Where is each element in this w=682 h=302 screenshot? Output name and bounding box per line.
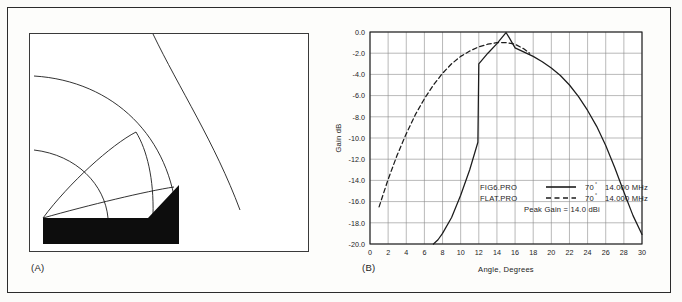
x-axis-tick-label: 14 <box>493 248 501 257</box>
panel-a-terrain-diagram <box>29 33 309 252</box>
y-axis-tick-label: -2.0 <box>353 49 365 58</box>
legend-frequency-series-2: 14.000 MHz <box>605 194 648 203</box>
y-axis-tick-label: -16.0 <box>349 197 365 206</box>
y-axis-tick-label: -6.0 <box>353 91 365 100</box>
legend-angle-series-1: 70 <box>585 183 594 192</box>
x-axis-tick-label: 24 <box>584 248 592 257</box>
x-axis-tick-label: 28 <box>620 248 628 257</box>
x-axis-tick-label: 10 <box>457 248 465 257</box>
panel-b-gain-chart: 0246810121416182022242628300.0-2.0-4.0-6… <box>330 20 660 280</box>
panel-a-drawing <box>29 33 309 252</box>
y-axis-tick-label: -12.0 <box>349 155 365 164</box>
ray-arc-large <box>34 76 177 218</box>
y-axis-tick-label: -10.0 <box>349 134 365 143</box>
x-axis-tick-label: 30 <box>638 248 646 257</box>
x-axis-tick-label: 18 <box>529 248 537 257</box>
y-axis-tick-label: -4.0 <box>353 70 365 79</box>
legend-frequency-series-1: 14.000 MHz <box>605 183 648 192</box>
y-axis-tick-label: -8.0 <box>353 113 365 122</box>
legend-label-series-2: FLAT.PRO <box>480 194 517 203</box>
x-axis-tick-label: 2 <box>386 248 390 257</box>
y-axis-tick-label: 0.0 <box>355 28 365 37</box>
legend-angle-series-2: 70 <box>585 194 594 203</box>
x-axis-title: Angle, Degrees <box>478 265 534 274</box>
x-axis-tick-label: 20 <box>547 248 555 257</box>
legend-degree-series-1: ° <box>595 181 597 187</box>
legend-label-series-1: FIG6.PRO <box>480 183 517 192</box>
gain-vs-angle-plot: 0246810121416182022242628300.0-2.0-4.0-6… <box>330 20 660 280</box>
legend-degree-series-2: ° <box>595 192 597 198</box>
x-axis-tick-label: 6 <box>422 248 426 257</box>
x-axis-tick-label: 12 <box>475 248 483 257</box>
y-axis-tick-label: -18.0 <box>349 219 365 228</box>
figure-root: (A) 0246810121416182022242628300.0-2.0-4… <box>0 0 682 302</box>
peak-gain-annotation: Peak Gain = 14.0 dBi <box>524 205 600 214</box>
panel-b-caption: (B) <box>362 262 376 273</box>
x-axis-tick-label: 4 <box>404 248 408 257</box>
panel-a-caption: (A) <box>31 262 45 273</box>
x-axis-tick-label: 0 <box>368 248 372 257</box>
ray-arc-outer <box>153 34 240 210</box>
x-axis-tick-label: 8 <box>441 248 445 257</box>
x-axis-tick-label: 16 <box>511 248 519 257</box>
ray-arc-upper-right <box>136 132 153 215</box>
x-axis-tick-label: 22 <box>565 248 573 257</box>
y-axis-title: Gain dB <box>334 123 343 152</box>
x-axis-tick-label: 26 <box>602 248 610 257</box>
y-axis-tick-label: -14.0 <box>349 176 365 185</box>
y-axis-tick-label: -20.0 <box>349 240 365 249</box>
